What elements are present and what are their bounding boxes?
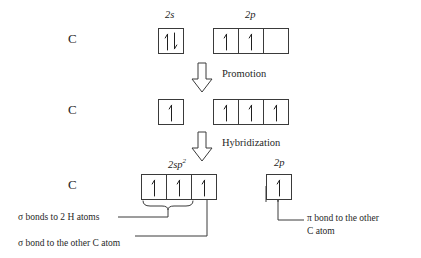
spin-up-icon [142,175,166,199]
atom-label-hybridized: C [68,177,77,193]
orbital-group-2sp2 [141,174,217,200]
subshell-label-2p-remaining: 2p [274,157,285,168]
orbital-box [213,28,239,54]
orbital-box [166,174,192,200]
subshell-label-2p-ground: 2p [245,9,256,20]
annotation-pi-bond-line2: C atom [307,226,335,238]
spin-up-icon [192,175,216,199]
orbital-box [191,174,217,200]
spin-up-icon [239,100,263,124]
atom-label-ground: C [68,31,77,47]
spin-pair-up-down-icon [159,29,183,53]
spin-up-icon [167,175,191,199]
subshell-label-2p-ground-text: 2p [245,9,256,20]
spin-up-icon [239,29,263,53]
spin-up-icon [214,100,238,124]
orbital-box [141,174,167,200]
subshell-label-2sp2-sup: 2 [183,157,187,165]
orbital-group-2s-promoted [158,99,184,125]
subshell-label-2s-ground-text: 2s [165,9,174,20]
orbital-box [158,28,184,54]
orbital-box [213,99,239,125]
orbital-box [263,99,289,125]
orbital-group-2p-promoted [213,99,289,125]
hybridization-arrow-icon [190,131,214,163]
orbital-box-empty [263,28,289,54]
annotation-sigma-h-bonds: σ bonds to 2 H atoms [18,212,99,224]
promotion-label: Promotion [222,68,266,79]
leader-line-pi-bond-stem [252,186,286,204]
spin-up-icon [159,100,183,124]
subshell-label-2sp2: 2sp2 [168,157,186,170]
orbital-diagram: C 2s 2p [0,0,421,258]
orbital-box [238,99,264,125]
atom-label-promoted: C [68,102,77,118]
spin-up-icon [214,29,238,53]
orbital-box [238,28,264,54]
leader-line-pi-bond [252,200,312,232]
orbital-group-2s-ground [158,28,184,54]
annotation-sigma-c-bond: σ bond to the other C atom [18,238,120,250]
orbital-box [158,99,184,125]
orbital-group-2p-ground [213,28,289,54]
subshell-label-2sp2-text: 2sp [168,159,183,170]
annotation-pi-bond-line1: π bond to the other [307,213,379,225]
spin-up-icon [264,100,288,124]
subshell-label-2p-remaining-text: 2p [274,157,285,168]
promotion-arrow-icon [190,62,214,94]
subshell-label-2s-ground: 2s [165,9,174,20]
hybridization-label: Hybridization [222,137,280,148]
